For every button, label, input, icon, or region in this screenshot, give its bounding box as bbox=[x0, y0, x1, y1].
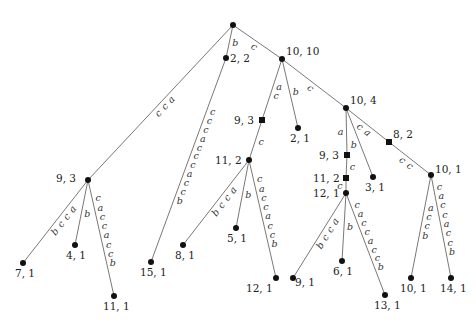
edge-label-char: b bbox=[314, 240, 327, 251]
node-label: 7, 1 bbox=[15, 267, 35, 279]
edge-label-layer: accbccccacccaccbaccbbcaccaccbacbccaccbbc… bbox=[49, 37, 456, 273]
node-label: 10, 4 bbox=[350, 94, 377, 106]
node-label: 2, 1 bbox=[290, 132, 310, 144]
edge-label-char: b bbox=[245, 189, 251, 200]
suffix-tree-diagram: accbccccacccaccbaccbbcaccaccbacbccaccbbc… bbox=[0, 0, 476, 329]
node-label: 2, 2 bbox=[230, 52, 250, 64]
node-label: 10, 10 bbox=[286, 45, 319, 57]
node-label: 9, 3 bbox=[234, 114, 254, 126]
edge-label-char: b bbox=[378, 261, 384, 272]
node-label: 10, 1 bbox=[435, 163, 462, 175]
node-marker bbox=[148, 259, 154, 265]
square-node-marker bbox=[343, 175, 349, 181]
node-label: 11, 1 bbox=[103, 300, 130, 312]
edge-label-char: a bbox=[66, 203, 78, 215]
edge-label-char: c bbox=[249, 40, 260, 52]
node-label: 8, 2 bbox=[393, 128, 413, 140]
node-label: 12, 1 bbox=[246, 282, 273, 294]
edge-label-char: c bbox=[305, 82, 316, 94]
node-label: 14, 1 bbox=[440, 282, 467, 294]
node-marker bbox=[428, 172, 434, 178]
node-label: 9, 3 bbox=[56, 172, 76, 184]
square-node-marker bbox=[386, 139, 392, 145]
edge-label-char: b bbox=[232, 37, 238, 48]
edge bbox=[346, 108, 347, 155]
node-marker bbox=[72, 242, 78, 248]
node-label: 9, 1 bbox=[295, 276, 315, 288]
node-marker bbox=[343, 190, 349, 196]
node-marker bbox=[343, 105, 349, 111]
edge-label-char: a bbox=[227, 184, 239, 195]
edge-label-char: c bbox=[350, 161, 356, 172]
edge-label-char: c bbox=[274, 90, 280, 101]
node-marker bbox=[273, 275, 279, 281]
node-label: 15, 1 bbox=[140, 266, 167, 278]
node-marker bbox=[408, 275, 414, 281]
node-marker bbox=[223, 55, 229, 61]
edge bbox=[342, 193, 346, 261]
node-label: 6, 1 bbox=[333, 265, 353, 277]
edge-label-char: a bbox=[329, 216, 342, 227]
node-label: 5, 1 bbox=[227, 232, 247, 244]
node-marker bbox=[246, 157, 252, 163]
node-marker bbox=[339, 258, 345, 264]
edge-label-char: a bbox=[165, 93, 177, 105]
node-marker bbox=[233, 225, 239, 231]
edge-label-char: b bbox=[422, 230, 428, 241]
node-label: 8, 1 bbox=[175, 249, 195, 261]
tree-svg: accbccccacccaccbaccbbcaccaccbacbccaccbbc… bbox=[0, 0, 476, 329]
node-label: 3, 1 bbox=[365, 181, 385, 193]
edge-label-char: b bbox=[271, 238, 277, 249]
edge-label-char: b bbox=[347, 221, 353, 232]
edge bbox=[346, 193, 385, 295]
node-label: 10, 1 bbox=[400, 282, 427, 294]
edge-label-char: b bbox=[110, 257, 116, 268]
edge-label-char: b bbox=[84, 208, 90, 219]
square-node-marker bbox=[344, 152, 350, 158]
node-label: 11, 2 bbox=[215, 154, 242, 166]
node-marker bbox=[279, 56, 285, 62]
node-label: 11, 2 bbox=[313, 172, 340, 184]
node-marker bbox=[295, 125, 301, 131]
node-marker bbox=[448, 275, 454, 281]
node-label: 4, 1 bbox=[66, 249, 86, 261]
node-marker bbox=[111, 293, 117, 299]
edge-label-char: c bbox=[259, 136, 265, 147]
node-marker bbox=[370, 174, 376, 180]
edge-label-char: b bbox=[351, 139, 357, 150]
node-label: 13, 1 bbox=[374, 299, 401, 311]
edge-label-char: b bbox=[293, 86, 299, 97]
edge-label-char: b bbox=[449, 246, 455, 257]
node-label: 9, 3 bbox=[319, 149, 339, 161]
node-marker bbox=[85, 177, 91, 183]
node-label: 12, 1 bbox=[313, 187, 340, 199]
node-marker bbox=[382, 292, 388, 298]
square-node-marker bbox=[259, 117, 265, 123]
root-node-marker bbox=[230, 22, 236, 28]
edge-label-char: b bbox=[177, 195, 183, 206]
node-layer: 2, 210, 109, 37, 14, 111, 115, 19, 32, 1… bbox=[15, 22, 467, 312]
edge-label-char: a bbox=[338, 126, 344, 137]
edge bbox=[346, 155, 347, 178]
node-marker bbox=[180, 242, 186, 248]
node-marker bbox=[20, 260, 26, 266]
edge-label-char: a bbox=[362, 126, 374, 138]
edge-label-char: c bbox=[405, 160, 417, 172]
